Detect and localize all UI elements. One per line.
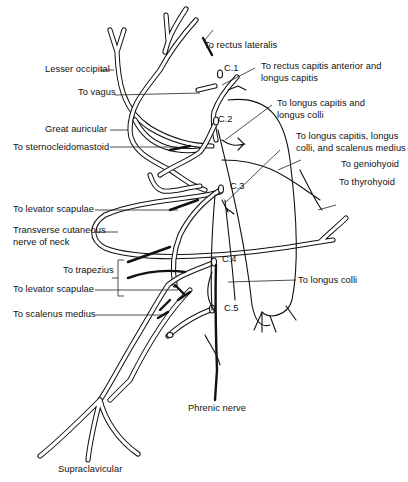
level-c3: C.3 xyxy=(230,181,244,192)
label-transverse-cutaneous-line1: Transverse cutaneous xyxy=(13,225,106,236)
transverse-cutaneous-nerve xyxy=(94,192,346,257)
label-to-rectus-capitis-line2: longus capitis xyxy=(261,73,318,84)
label-to-longus-colli: To longus colli xyxy=(298,275,357,286)
level-c4: C.4 xyxy=(222,254,236,265)
label-to-trapezius: To trapezius xyxy=(63,265,114,276)
c5-root xyxy=(168,310,210,336)
hypoglossal-loop xyxy=(228,99,296,332)
label-great-auricular: Great auricular xyxy=(45,124,107,135)
label-to-longus-capitis-scalenus-line1: To longus capitis, longus xyxy=(296,131,399,142)
great-auricular-nerve xyxy=(130,9,205,190)
label-to-rectus-capitis-line1: To rectus capitis anterior and xyxy=(261,61,381,72)
label-to-geniohyoid: To geniohyoid xyxy=(341,159,399,170)
phrenic-nerve xyxy=(215,265,217,400)
level-c1: C.1 xyxy=(224,63,238,74)
label-to-longus-capitis-colli-line2: longus colli xyxy=(277,110,324,121)
label-to-rectus-lateralis: To rectus lateralis xyxy=(204,40,277,51)
label-supraclavicular: Supraclavicular xyxy=(58,464,122,475)
label-to-thyrohyoid: To thyrohyoid xyxy=(339,177,395,188)
label-to-levator-scapulae-lower: To levator scapulae xyxy=(13,284,94,295)
label-to-sternocleidomastoid: To sternocleidomastoid xyxy=(13,142,109,153)
label-phrenic-nerve: Phrenic nerve xyxy=(188,403,246,414)
label-to-longus-capitis-colli-line1: To longus capitis and xyxy=(277,98,365,109)
level-c5: C.5 xyxy=(224,303,238,314)
label-to-vagus: To vagus xyxy=(78,87,116,98)
label-to-longus-capitis-scalenus-line2: colli, and scalenus medius xyxy=(296,143,406,154)
label-to-levator-scapulae-upper: To levator scapulae xyxy=(13,204,94,215)
branch-levator-scapulae-lower xyxy=(175,285,190,300)
muscular-branches xyxy=(128,38,212,318)
level-c2: C.2 xyxy=(218,114,232,125)
label-lesser-occipital: Lesser occipital xyxy=(45,64,110,75)
descending-cervical-branches xyxy=(205,86,322,365)
c1-c2-loop xyxy=(198,77,237,140)
label-transverse-cutaneous-line2: nerve of neck xyxy=(13,237,69,248)
label-to-scalenus-medius: To scalenus medius xyxy=(13,309,96,320)
